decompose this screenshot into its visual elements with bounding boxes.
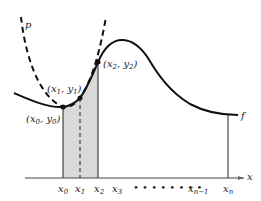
- tick-label-x0: x0: [58, 183, 69, 196]
- tick-label-x2: x2: [94, 183, 105, 196]
- tick-label-x3: x3: [112, 183, 123, 196]
- curve-p-label: p: [25, 19, 32, 30]
- point-label-x2-y2: (x2, y2): [103, 58, 138, 71]
- point-x1-y1: [78, 96, 83, 101]
- curve-f: [14, 40, 238, 115]
- point-x2-y2: [96, 60, 101, 65]
- x-axis-arrow-icon: [238, 176, 244, 180]
- diagram-canvas: p f x (x0, y0) (x1, y1) (x2, y2) x0 x1 x…: [0, 0, 261, 201]
- axis-label: x: [247, 171, 253, 182]
- tick-label-xn: xn: [223, 183, 234, 196]
- point-label-x0-y0: (x0, y0): [26, 113, 61, 126]
- point-label-x1-y1: (x1, y1): [47, 83, 82, 96]
- tick-label-x1: x1: [75, 183, 85, 196]
- point-x0-y0: [61, 105, 66, 110]
- curve-f-label: f: [240, 110, 247, 121]
